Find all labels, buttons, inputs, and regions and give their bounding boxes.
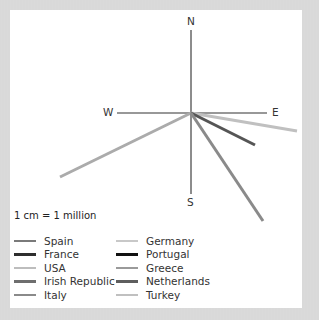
legend-label: Turkey — [146, 289, 180, 301]
legend-label: Spain — [44, 235, 73, 247]
legend-swatch — [14, 267, 36, 270]
legend-swatch — [116, 280, 138, 283]
legend-label: Irish Republic — [44, 275, 115, 287]
vector-line-sse-medium — [191, 113, 263, 221]
legend: Spain France USA Irish Republic Italy Ge… — [14, 234, 226, 302]
legend-swatch — [116, 294, 138, 297]
legend-item-greece: Greece — [116, 261, 226, 275]
south-label: S — [187, 197, 194, 208]
vector-line-wsw-light — [60, 113, 191, 177]
legend-label: Greece — [146, 262, 183, 274]
legend-item-portugal: Portugal — [116, 248, 226, 262]
legend-swatch — [116, 253, 138, 256]
legend-swatch — [14, 240, 36, 243]
legend-item-turkey: Turkey — [116, 288, 226, 302]
legend-swatch — [116, 267, 138, 270]
legend-item-germany: Germany — [116, 234, 226, 248]
legend-label: Portugal — [146, 248, 190, 260]
legend-label: Germany — [146, 235, 194, 247]
legend-label: USA — [44, 262, 66, 274]
north-label: N — [187, 16, 195, 27]
legend-item-italy: Italy — [14, 288, 116, 302]
legend-swatch — [14, 280, 36, 283]
scale-label: 1 cm = 1 million — [14, 210, 96, 221]
east-label: E — [272, 107, 279, 118]
legend-label: Netherlands — [146, 275, 210, 287]
legend-item-netherlands: Netherlands — [116, 275, 226, 289]
legend-swatch — [14, 294, 36, 297]
legend-item-usa: USA — [14, 261, 116, 275]
legend-label: France — [44, 248, 79, 260]
west-label: W — [103, 107, 113, 118]
legend-item-irish-republic: Irish Republic — [14, 275, 116, 289]
legend-label: Italy — [44, 289, 67, 301]
legend-swatch — [116, 240, 138, 243]
legend-item-spain: Spain — [14, 234, 116, 248]
legend-item-france: France — [14, 248, 116, 262]
legend-swatch — [14, 253, 36, 256]
